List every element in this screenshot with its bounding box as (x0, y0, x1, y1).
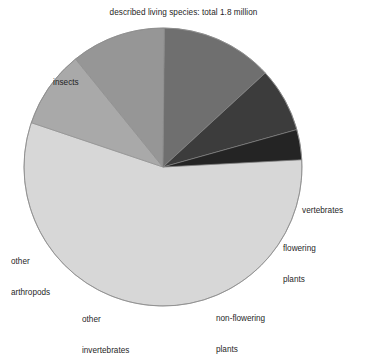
pie-label-other-invertebrates-line1: other (82, 315, 129, 325)
pie-label-non-flowering-plants-line2: plants (216, 345, 265, 355)
pie-label-vertebrates-text: vertebrates (302, 206, 343, 215)
pie-label-other-arthropods-line2: arthropods (11, 288, 50, 298)
pie-label-flowering-plants: flowering plants (283, 223, 316, 306)
pie-label-other-arthropods: other arthropods (11, 236, 50, 319)
pie-label-insects: insects (44, 68, 79, 99)
pie-label-vertebrates: vertebrates (293, 196, 343, 227)
pie-label-flowering-plants-line1: flowering (283, 244, 316, 254)
pie-label-flowering-plants-line2: plants (283, 275, 316, 285)
pie-label-insects-text: insects (53, 78, 78, 87)
pie-label-other-arthropods-line1: other (11, 257, 50, 267)
pie-label-other-invertebrates-line2: invertebrates (82, 346, 129, 356)
pie-label-non-flowering-plants-line1: non-flowering (216, 314, 265, 324)
pie-label-other-invertebrates: other invertebrates (82, 294, 129, 358)
pie-label-non-flowering-plants: non-flowering plants (216, 293, 265, 358)
